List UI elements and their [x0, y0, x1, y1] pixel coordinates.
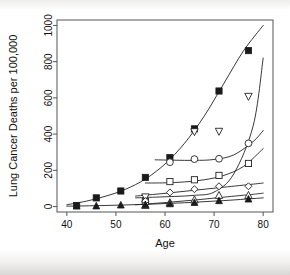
data-point-series-1 [118, 188, 124, 194]
fit-curve-series-1 [67, 25, 263, 204]
y-axis-title: Lung Cancer Deaths per 100,000 [7, 35, 19, 198]
data-point-series-3 [216, 155, 223, 162]
x-tick-label: 70 [209, 219, 221, 230]
x-tick-label: 60 [159, 219, 171, 230]
data-point-series-4 [191, 177, 197, 183]
data-point-series-5 [216, 183, 223, 190]
y-tick-label: 200 [43, 162, 54, 179]
data-point-series-1 [245, 48, 251, 54]
data-point-series-1 [216, 88, 222, 94]
data-point-series-3 [245, 140, 252, 147]
data-point-series-3 [167, 159, 174, 166]
fit-curve-series-2 [136, 58, 264, 198]
data-point-series-5 [245, 183, 252, 190]
data-point-series-3 [191, 156, 198, 163]
y-tick-label: 800 [43, 53, 54, 70]
data-point-series-4 [216, 172, 222, 178]
lung-cancer-scatter-figure: 405060708002004006008001000AgeLung Cance… [0, 0, 290, 275]
x-tick-label: 40 [61, 219, 73, 230]
x-tick-label: 50 [110, 219, 122, 230]
data-point-series-4 [245, 160, 251, 166]
y-tick-label: 1000 [43, 14, 54, 37]
data-point-series-2 [245, 93, 252, 100]
x-tick-label: 80 [258, 219, 270, 230]
data-point-series-4 [167, 178, 173, 184]
data-point-series-1 [93, 195, 99, 201]
y-tick-label: 600 [43, 89, 54, 106]
x-axis-title: Age [155, 237, 175, 249]
y-tick-label: 400 [43, 125, 54, 142]
chart-canvas: 405060708002004006008001000AgeLung Cance… [0, 0, 290, 275]
y-tick-label: 0 [43, 203, 54, 209]
data-point-series-2 [215, 128, 222, 135]
data-point-series-1 [142, 174, 148, 180]
fit-curve-series-5 [136, 183, 264, 196]
data-point-series-5 [191, 186, 198, 193]
data-point-series-5 [166, 189, 173, 196]
